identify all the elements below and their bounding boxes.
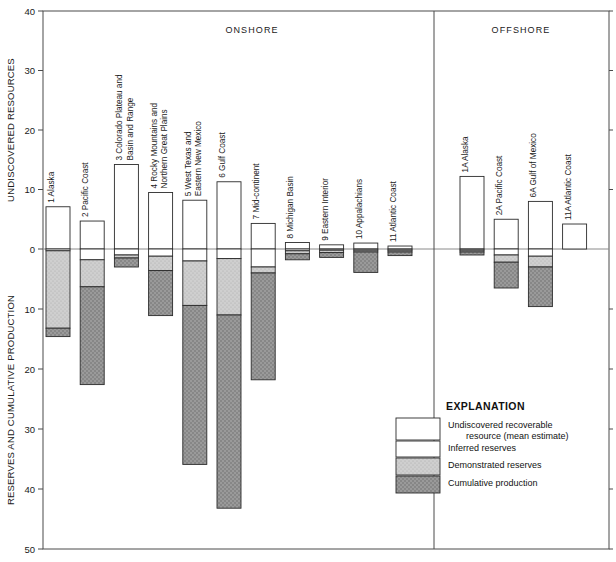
y-tick-label: 10: [24, 304, 35, 315]
bar-group[interactable]: [494, 219, 518, 288]
bar-segment-cumulative[interactable]: [320, 253, 344, 258]
bar-segment-demonstrated[interactable]: [251, 267, 275, 273]
bar-segment-inferred[interactable]: [114, 249, 138, 255]
y-tick-label: 30: [24, 424, 35, 435]
bar-category-label: 7 Mid-continent: [252, 163, 261, 220]
bar-segment-undiscovered[interactable]: [354, 243, 378, 249]
group-label-onshore: ONSHORE: [225, 25, 278, 35]
bar-category-label: 1 Alaska: [47, 171, 56, 202]
bar-category-label: 11A Atlantic Coast: [564, 153, 573, 220]
legend-label: Cumulative production: [448, 478, 538, 488]
bar-segment-demonstrated[interactable]: [528, 256, 552, 267]
bar-category-label: 6 Gulf Coast: [218, 132, 227, 178]
bar-segment-cumulative[interactable]: [149, 271, 173, 316]
bar-category-label: 8 Michigan Basin: [286, 176, 295, 239]
y-tick-label: 50: [24, 544, 35, 555]
bar-segment-inferred[interactable]: [251, 249, 275, 267]
bar-group[interactable]: [460, 176, 484, 255]
y-tick-label: 0: [30, 244, 35, 255]
bar-segment-demonstrated[interactable]: [80, 260, 104, 287]
bar-category-label: 5 West Texas and: [184, 131, 193, 196]
bar-segment-cumulative[interactable]: [251, 273, 275, 380]
bar-category-label: 2A Pacific Coast: [495, 155, 504, 215]
legend-title: EXPLANATION: [446, 400, 525, 412]
bar-segment-undiscovered[interactable]: [494, 219, 518, 249]
bar-category-label: 6A Gulf of Mexico: [529, 133, 538, 198]
bar-segment-cumulative[interactable]: [80, 287, 104, 385]
bar-segment-undiscovered[interactable]: [183, 200, 207, 249]
bar-segment-inferred[interactable]: [149, 249, 173, 256]
bar-category-label: Basin and Range: [126, 97, 135, 160]
bar-segment-demonstrated[interactable]: [217, 259, 241, 315]
y-tick-label: 40: [24, 484, 35, 495]
y-tick-label: 20: [24, 125, 35, 136]
bar-segment-cumulative[interactable]: [46, 328, 70, 336]
bar-group[interactable]: [251, 223, 275, 379]
bar-segment-cumulative[interactable]: [183, 305, 207, 464]
bar-segment-cumulative[interactable]: [354, 252, 378, 272]
bar-segment-cumulative[interactable]: [114, 258, 138, 267]
bar-segment-undiscovered[interactable]: [251, 223, 275, 249]
bar-segment-undiscovered[interactable]: [320, 245, 344, 249]
stacked-bar-chart: 4030201001020304050UNDISCOVERED RESOURCE…: [0, 0, 616, 562]
bar-segment-cumulative[interactable]: [217, 315, 241, 508]
y-axis-title-top: UNDISCOVERED RESOURCES: [5, 58, 16, 202]
bar-category-label: 11 Atlantic Coast: [389, 180, 398, 242]
bar-category-label: 3 Colorado Plateau and: [115, 74, 124, 160]
bar-segment-cumulative[interactable]: [388, 252, 412, 256]
bar-segment-demonstrated[interactable]: [149, 256, 173, 270]
y-tick-label: 30: [24, 65, 35, 76]
bar-group[interactable]: [183, 200, 207, 464]
bar-group[interactable]: [149, 192, 173, 315]
bar-segment-demonstrated[interactable]: [114, 255, 138, 258]
bar-segment-demonstrated[interactable]: [183, 261, 207, 305]
y-tick-label: 10: [24, 184, 35, 195]
bar-segment-inferred[interactable]: [494, 249, 518, 255]
bar-segment-demonstrated[interactable]: [494, 255, 518, 262]
bar-segment-undiscovered[interactable]: [285, 242, 309, 249]
y-axis-title-bottom: RESERVES AND CUMULATIVE PRODUCTION: [5, 295, 16, 505]
legend-swatch: [396, 476, 440, 493]
bar-segment-undiscovered[interactable]: [460, 176, 484, 249]
bar-segment-undiscovered[interactable]: [149, 192, 173, 249]
bar-category-label: 9 Eastern Interior: [321, 178, 330, 241]
bar-group[interactable]: [114, 165, 138, 267]
bar-segment-cumulative[interactable]: [460, 252, 484, 255]
bar-segment-undiscovered[interactable]: [528, 201, 552, 249]
bar-category-label: 4 Rocky Mountains and: [150, 102, 159, 188]
legend-label-cont: resource (mean estimate): [466, 431, 569, 441]
legend-swatch: [396, 418, 440, 440]
bar-segment-cumulative[interactable]: [285, 254, 309, 260]
bar-segment-inferred[interactable]: [528, 249, 552, 256]
bar-segment-undiscovered[interactable]: [114, 165, 138, 249]
bar-group[interactable]: [80, 221, 104, 385]
bar-group[interactable]: [46, 207, 70, 337]
bar-category-label: 10 Appalachians: [355, 179, 364, 239]
bar-segment-inferred[interactable]: [80, 249, 104, 260]
bar-group[interactable]: [354, 243, 378, 272]
y-tick-label: 20: [24, 364, 35, 375]
bar-group[interactable]: [320, 245, 344, 258]
bar-segment-undiscovered[interactable]: [80, 221, 104, 249]
bar-segment-inferred[interactable]: [183, 249, 207, 261]
bar-segment-cumulative[interactable]: [494, 262, 518, 288]
legend-label: Inferred reserves: [448, 443, 517, 453]
bar-category-label: 2 Pacific Coast: [81, 162, 90, 217]
chart-root: 4030201001020304050UNDISCOVERED RESOURCE…: [0, 0, 616, 562]
group-label-offshore: OFFSHORE: [492, 25, 551, 35]
bar-group[interactable]: [528, 201, 552, 306]
bar-segment-demonstrated[interactable]: [46, 251, 70, 328]
bar-segment-inferred[interactable]: [217, 249, 241, 259]
bar-segment-undiscovered[interactable]: [46, 207, 70, 249]
bar-segment-undiscovered[interactable]: [563, 224, 587, 249]
bar-segment-cumulative[interactable]: [528, 267, 552, 307]
legend-label: Undiscovered recoverable: [448, 420, 553, 430]
bar-group[interactable]: [388, 246, 412, 256]
bar-group[interactable]: [563, 224, 587, 249]
bar-group[interactable]: [217, 182, 241, 508]
bar-group[interactable]: [285, 242, 309, 259]
y-tick-label: 40: [24, 6, 35, 17]
bar-category-label: Eastern New Mexico: [194, 121, 203, 197]
legend-swatch: [396, 441, 440, 457]
bar-segment-undiscovered[interactable]: [217, 182, 241, 249]
